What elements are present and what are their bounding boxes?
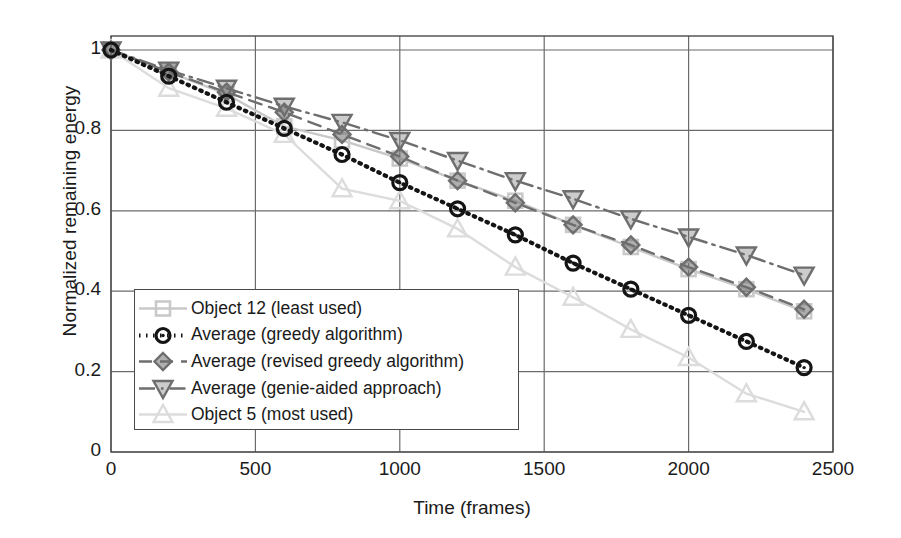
legend-swatch	[135, 348, 191, 375]
x-axis-title: Time (frames)	[111, 497, 833, 519]
legend-sample-diamond	[139, 353, 187, 370]
data-marker-circle-dot	[109, 48, 112, 51]
y-tick-label: 0.4	[31, 278, 101, 300]
legend-swatch	[135, 295, 191, 322]
legend-label: Average (greedy algorithm)	[191, 326, 403, 344]
legend-label: Average (genie-aided approach)	[191, 380, 442, 398]
legend-item: Object 12 (least used)	[135, 295, 520, 322]
data-marker-triangle-down	[795, 268, 814, 285]
legend-label: Object 12 (least used)	[191, 300, 362, 318]
x-tick-label: 500	[215, 458, 295, 480]
series-triangle-down	[102, 43, 814, 285]
x-tick-label: 0	[71, 458, 151, 480]
data-marker-circle-dot	[456, 207, 459, 210]
data-marker-circle-dot	[514, 233, 517, 236]
data-marker-circle-dot	[225, 101, 228, 104]
data-marker-triangle-down	[448, 153, 467, 170]
legend-item: Average (revised greedy algorithm)	[135, 348, 520, 375]
legend-sample-triangle-up	[139, 405, 187, 422]
data-marker-circle-dot	[161, 333, 164, 336]
data-marker-diamond	[155, 353, 172, 370]
data-marker-circle-dot	[629, 287, 632, 290]
legend-item: Average (genie-aided approach)	[135, 375, 520, 402]
x-tick-label: 2500	[793, 458, 873, 480]
legend-swatch	[135, 322, 191, 349]
legend-swatch	[135, 401, 191, 428]
x-tick-label: 1000	[360, 458, 440, 480]
legend-swatch	[135, 375, 191, 402]
legend-sample-square	[139, 302, 187, 316]
data-marker-circle-dot	[687, 314, 690, 317]
legend-item: Object 5 (most used)	[135, 401, 520, 428]
y-tick-label: 0.6	[31, 198, 101, 220]
y-tick-label: 0	[31, 439, 101, 461]
legend-sample-triangle-down	[139, 381, 187, 398]
data-marker-triangle-down	[737, 248, 756, 265]
data-marker-circle-dot	[167, 74, 170, 77]
y-tick-label: 0.8	[31, 117, 101, 139]
data-marker-circle-dot	[802, 366, 805, 369]
data-marker-circle-dot	[340, 153, 343, 156]
legend-label: Average (revised greedy algorithm)	[191, 353, 464, 371]
x-tick-label: 1500	[504, 458, 584, 480]
y-tick-label: 1	[31, 37, 101, 59]
y-tick-label: 0.2	[31, 359, 101, 381]
legend: Object 12 (least used)Average (greedy al…	[134, 289, 519, 430]
legend-label: Object 5 (most used)	[191, 406, 353, 424]
x-tick-label: 2000	[649, 458, 729, 480]
data-marker-circle-dot	[283, 127, 286, 130]
legend-sample-circle	[139, 328, 187, 342]
legend-item: Average (greedy algorithm)	[135, 322, 520, 349]
data-marker-circle-dot	[571, 261, 574, 264]
data-marker-circle-dot	[398, 181, 401, 184]
data-marker-circle-dot	[745, 340, 748, 343]
chart-figure: Normalized remaining energy Time (frames…	[0, 0, 901, 538]
